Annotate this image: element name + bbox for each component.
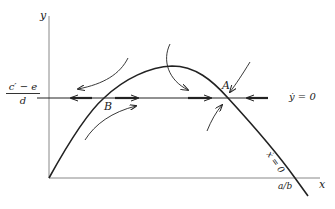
- line-arrow-right-of-A: [246, 95, 268, 101]
- x-intercept-label: a/b: [278, 182, 292, 191]
- y-dot-zero-label: ẏ = 0: [289, 92, 316, 102]
- y-intercept-denominator: d: [6, 94, 40, 106]
- diagram-svg: [0, 0, 335, 209]
- line-arrow-left-of-B: [70, 95, 92, 101]
- equilibrium-label-A: A: [222, 80, 230, 91]
- y-intercept-label: c′ − e d: [6, 82, 40, 106]
- x-axis-label: x: [319, 179, 325, 190]
- line-arrow-right-of-B: [115, 95, 139, 101]
- trajectory-arrow-lower-A: [207, 105, 222, 131]
- y-intercept-numerator: c′ − e: [6, 82, 40, 94]
- phase-diagram: y x c′ − e d a/b B A ẏ = 0 ẋ = 0: [0, 0, 335, 209]
- x-dot-zero-curve: [49, 66, 308, 196]
- equilibrium-label-B: B: [104, 101, 112, 112]
- trajectory-arrow-upper-A: [230, 62, 250, 92]
- y-axis-label: y: [40, 10, 46, 21]
- line-arrow-left-of-A: [188, 95, 212, 101]
